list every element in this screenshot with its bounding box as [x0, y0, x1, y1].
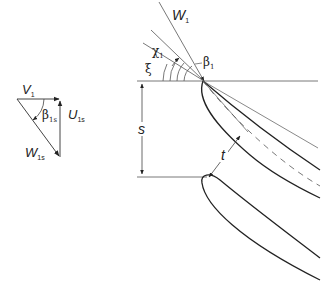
upper-blade-le-tangent	[203, 81, 248, 132]
beta1-label: β1	[203, 55, 214, 71]
v1-label: V1	[22, 82, 35, 98]
w1-label: W1	[172, 7, 189, 24]
lower-blade-pressure-surface	[202, 183, 320, 280]
chi1-label: χ1	[152, 44, 164, 60]
cascade-diagram: V1 U1s β1s W1s s t	[0, 0, 336, 294]
xi-arc	[163, 64, 167, 81]
beta1s-label: β1s	[42, 108, 57, 124]
upper-blade-pressure-surface	[202, 81, 320, 198]
beta1-arc-2	[177, 63, 184, 81]
beta1-leader	[195, 63, 202, 64]
upper-blade-camber-line	[203, 81, 320, 186]
w1s-label: W1s	[25, 145, 45, 161]
w1s-vector	[17, 99, 59, 156]
velocity-triangle: V1 U1s β1s W1s	[17, 82, 85, 161]
blade-cascade: s t W1 χ1 ξ β1	[136, 2, 320, 280]
upper-blade-chord-tangent	[203, 81, 318, 148]
pitch-label: s	[138, 121, 145, 137]
xi-label: ξ	[145, 62, 152, 76]
u1s-label: U1s	[68, 107, 85, 123]
